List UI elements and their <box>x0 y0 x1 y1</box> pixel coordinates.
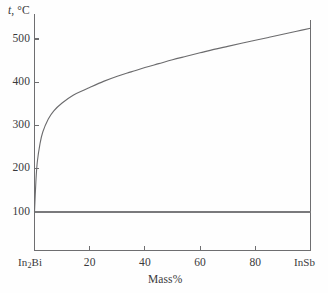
x-tick-label: 80 <box>240 256 270 268</box>
x-tick-marks <box>35 246 311 251</box>
liquidus-curve <box>35 28 311 212</box>
y-axis-title: t, °C <box>8 4 30 16</box>
y-tick-label: 400 <box>0 75 30 87</box>
x-axis-title: Mass% <box>148 273 182 285</box>
axes-group <box>35 14 311 251</box>
y-tick-label: 500 <box>0 32 30 44</box>
subscript-2: 2 <box>27 261 31 270</box>
y-tick-label: 200 <box>0 161 30 173</box>
chart-canvas <box>0 0 328 293</box>
x-tick-label-right-endmember: InSb <box>294 256 315 268</box>
y-tick-label: 100 <box>0 205 30 217</box>
x-tick-label: 20 <box>75 256 105 268</box>
y-axis-unit: , °C <box>11 4 29 16</box>
y-tick-label: 300 <box>0 118 30 130</box>
x-tick-label: 60 <box>185 256 215 268</box>
x-tick-label: 40 <box>130 256 160 268</box>
x-tick-label-left-endmember: In2Bi <box>18 256 42 270</box>
phase-diagram-figure: t, °C Mass% In2Bi InSb 100200300400500 2… <box>0 0 328 293</box>
